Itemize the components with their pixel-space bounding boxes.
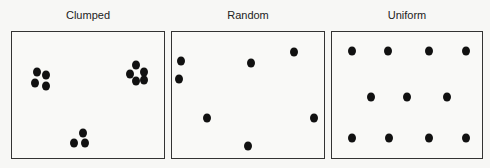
dot-random [175, 75, 183, 84]
dot-uniform [384, 47, 392, 56]
dot-random [244, 142, 252, 151]
dot-uniform [425, 134, 433, 143]
dot-clumped [140, 76, 148, 85]
panel-random [171, 31, 325, 159]
dot-random [310, 114, 318, 123]
dot-clumped [42, 71, 50, 80]
dot-clumped [132, 61, 140, 70]
title-random: Random [171, 9, 325, 21]
dot-uniform [425, 47, 433, 56]
dot-clumped [33, 68, 41, 77]
dot-clumped [79, 129, 87, 138]
dot-uniform [462, 134, 470, 143]
dot-clumped [31, 79, 39, 88]
dot-uniform [385, 134, 393, 143]
dot-uniform [443, 93, 451, 102]
dot-uniform [348, 134, 356, 143]
dot-clumped [70, 139, 78, 148]
dot-uniform [462, 47, 470, 56]
title-clumped: Clumped [11, 9, 165, 21]
dot-clumped [132, 77, 140, 86]
dot-uniform [348, 47, 356, 56]
dot-random [247, 59, 255, 68]
dot-uniform [403, 93, 411, 102]
dot-random [177, 57, 185, 66]
dot-uniform [367, 93, 375, 102]
dot-random [290, 48, 298, 57]
dot-random [203, 114, 211, 123]
title-uniform: Uniform [330, 9, 484, 21]
dot-clumped [81, 139, 89, 148]
dot-clumped [42, 82, 50, 91]
